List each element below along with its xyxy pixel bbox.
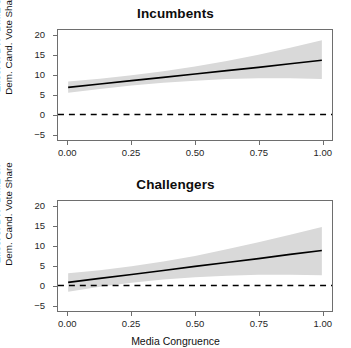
plot-area-incumbents [57,29,333,141]
y-tick-label: 15 [34,50,45,60]
y-tick-label: −5 [34,130,45,140]
y-tick-label: 5 [40,261,45,271]
x-tick-labels: 0.000.250.500.751.00 [57,318,333,332]
confidence-band [68,227,322,292]
y-tick-label: 20 [34,201,45,211]
x-tick-mark [131,312,132,316]
y-tick-labels: −505101520 [0,29,52,141]
y-tick-label: 10 [34,241,45,251]
x-tick-mark [259,141,260,145]
x-tick-mark [131,141,132,145]
x-tick-label: 1.00 [314,318,333,329]
panel-incumbents: Incumbents Effect of DW−DIME on Dem. Can… [0,0,351,171]
y-tick-label: −5 [34,301,45,311]
y-tick-label: 10 [34,70,45,80]
x-tick-label: 0.25 [122,318,141,329]
x-tick-label: 0.00 [58,147,77,158]
y-tick-label: 0 [40,281,45,291]
x-tick-marks [57,312,333,317]
x-tick-label: 0.00 [58,318,77,329]
x-tick-mark [195,312,196,316]
x-tick-label: 1.00 [314,147,333,158]
y-tick-label: 0 [40,110,45,120]
x-tick-label: 0.75 [250,318,269,329]
x-tick-mark [195,141,196,145]
y-tick-labels: −505101520 [0,200,52,312]
plot-svg-incumbents [58,30,332,140]
x-tick-marks [57,141,333,146]
y-tick-label: 15 [34,221,45,231]
x-tick-mark [259,312,260,316]
x-tick-label: 0.50 [186,147,205,158]
x-tick-label: 0.50 [186,318,205,329]
plot-svg-challengers [58,201,332,311]
x-tick-mark [67,312,68,316]
x-tick-label: 0.75 [250,147,269,158]
panel-challengers: Challengers Effect of DW−DIME on Dem. Ca… [0,171,351,342]
y-tick-label: 5 [40,90,45,100]
panel-title-incumbents: Incumbents [0,6,351,22]
y-tick-label: 20 [34,30,45,40]
x-tick-mark [323,141,324,145]
x-tick-labels: 0.000.250.500.751.00 [57,147,333,161]
x-tick-label: 0.25 [122,147,141,158]
plot-area-challengers [57,200,333,312]
x-axis-title: Media Congruence [0,335,351,348]
panel-title-challengers: Challengers [0,177,351,193]
x-tick-mark [67,141,68,145]
x-tick-mark [323,312,324,316]
confidence-band [68,40,322,93]
